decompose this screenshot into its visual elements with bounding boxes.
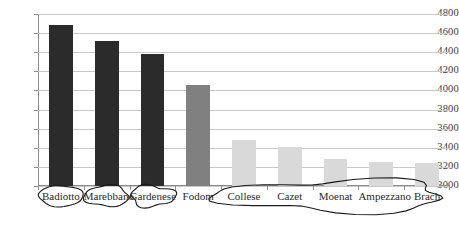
y-axis-tick bbox=[34, 33, 38, 34]
y-axis-tick bbox=[34, 71, 38, 72]
bar bbox=[278, 147, 302, 186]
y-axis-tick bbox=[34, 129, 38, 130]
x-axis-category-label: Collese bbox=[221, 188, 267, 204]
x-axis-category-label: Marebbano bbox=[84, 188, 130, 204]
x-axis-category-labels: BadiottoMarebbanoGardeneseFodomColleseCa… bbox=[38, 188, 450, 210]
x-axis-category-label: Badiotto bbox=[38, 188, 84, 204]
gridline bbox=[38, 14, 450, 15]
bar-chart: 3000320034003600380040004200440046004800… bbox=[0, 0, 459, 235]
bar bbox=[186, 85, 210, 186]
y-axis-line bbox=[38, 14, 39, 186]
x-axis-category-label: Gardenese bbox=[130, 188, 176, 204]
bar bbox=[324, 159, 348, 186]
gridline bbox=[38, 186, 450, 187]
y-axis-tick bbox=[34, 110, 38, 111]
x-axis-category-label: Moenat bbox=[313, 188, 359, 204]
bar bbox=[49, 25, 73, 187]
y-axis-tick bbox=[34, 90, 38, 91]
y-axis-tick bbox=[34, 14, 38, 15]
bar bbox=[232, 140, 256, 186]
bar bbox=[95, 41, 119, 186]
bar bbox=[369, 162, 393, 186]
x-axis-category-label: Ampezzano bbox=[358, 188, 404, 204]
x-axis-category-label: Fodom bbox=[175, 188, 221, 204]
x-axis-category-label: Brach bbox=[404, 188, 450, 204]
x-axis-category-label: Cazet bbox=[267, 188, 313, 204]
y-axis-tick bbox=[34, 52, 38, 53]
bar bbox=[415, 163, 439, 186]
bar bbox=[141, 54, 165, 186]
plot-area bbox=[38, 14, 450, 186]
y-axis-tick bbox=[34, 167, 38, 168]
gridline bbox=[38, 33, 450, 34]
y-axis-tick bbox=[34, 148, 38, 149]
